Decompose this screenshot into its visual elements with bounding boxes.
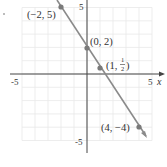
x-tick-label-neg5: -5 [11,77,19,87]
point-label-0-2: (0, 2) [90,36,113,48]
graph-svg: -5 5 x 5 -5 (−2, 5) (0, 2) (1, 1 2 ) (4,… [0,0,167,167]
y-tick-label-5: 5 [79,2,84,12]
point-1-half [97,65,102,70]
point-neg2-5 [58,4,63,9]
x-tick-label-5: 5 [148,77,153,87]
point-label-1-half-num: 1 [121,56,124,63]
x-axis-label: x [156,76,162,87]
point-0-2 [84,45,89,50]
point-label-1-half-den: 2 [121,65,124,72]
point-4-neg4 [136,124,141,129]
line-arrow-icon [141,131,147,138]
y-tick-label-neg5: -5 [75,137,83,147]
point-label-1-half-suffix: ) [126,60,130,72]
point-label-4-neg4: (4, −4) [101,122,130,134]
point-label-1-half-prefix: (1, [106,60,117,72]
stray-dot [3,13,5,15]
coordinate-plane-figure: -5 5 x 5 -5 (−2, 5) (0, 2) (1, 1 2 ) (4,… [0,0,167,167]
point-label-neg2-5: (−2, 5) [27,9,56,21]
